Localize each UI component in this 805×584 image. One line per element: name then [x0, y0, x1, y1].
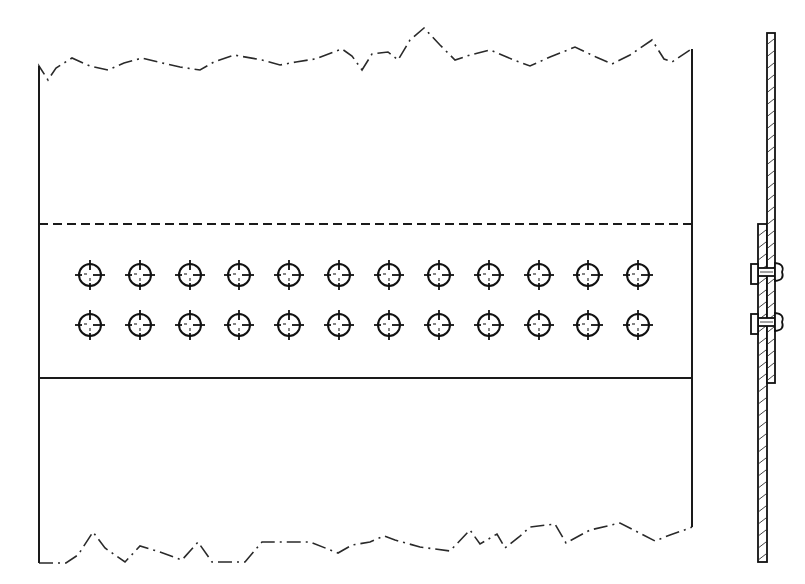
upper-plate-section-outline — [767, 33, 775, 383]
rivet-symbol — [75, 260, 105, 290]
rivet-symbol — [424, 310, 454, 340]
rivet-symbol — [524, 260, 554, 290]
rivet-symbol — [75, 310, 105, 340]
riveted-lap-joint-drawing — [0, 0, 805, 584]
rivet-symbol — [573, 310, 603, 340]
section-view — [751, 33, 783, 562]
rivet-symbol — [224, 260, 254, 290]
rivet-symbol — [324, 310, 354, 340]
bottom-break-line — [39, 523, 692, 563]
front-view — [39, 28, 692, 563]
rivet-dome-head — [775, 313, 783, 331]
rivet-symbol — [125, 260, 155, 290]
rivet-dome-head — [775, 263, 783, 281]
rivet-symbol — [274, 260, 304, 290]
rivet-symbol — [374, 310, 404, 340]
rivet-flat-head — [751, 314, 758, 334]
rivet-symbol — [623, 260, 653, 290]
rivet-symbol — [274, 310, 304, 340]
rivet-symbol — [623, 310, 653, 340]
rivet-symbol — [573, 260, 603, 290]
rivet-symbol — [474, 310, 504, 340]
upper-plate-section — [767, 33, 775, 383]
rivet-symbol — [474, 260, 504, 290]
top-break-line — [39, 28, 692, 80]
rivet-symbol — [374, 260, 404, 290]
rivet-symbol — [224, 310, 254, 340]
rivet-symbol — [424, 260, 454, 290]
rivet-symbol — [125, 310, 155, 340]
rivet-symbol — [524, 310, 554, 340]
rivet-symbol — [324, 260, 354, 290]
rivet-symbol — [175, 260, 205, 290]
rivet-symbol — [175, 310, 205, 340]
rivet-flat-head — [751, 264, 758, 284]
